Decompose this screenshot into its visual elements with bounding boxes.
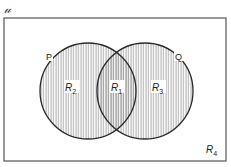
venn-diagram: 𝓊 P Q R2 R1 R3 R4	[0, 0, 231, 167]
universe-label: 𝓊	[4, 2, 12, 16]
set-q-label: Q	[175, 52, 182, 62]
set-p-label: P	[46, 52, 52, 62]
